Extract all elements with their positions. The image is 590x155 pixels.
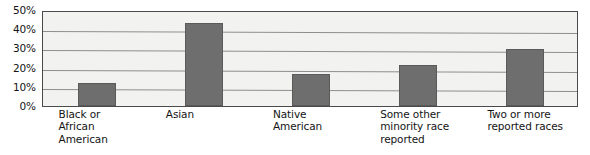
x-axis: Black or African AmericanAsianNative Ame…	[42, 108, 578, 155]
bar	[292, 74, 330, 106]
bar	[399, 65, 437, 106]
x-axis-category-label: Black or African American	[59, 108, 108, 145]
y-axis-tick-label: 10%	[13, 82, 36, 93]
y-axis-tick-label: 20%	[13, 63, 36, 74]
y-axis-tick-label: 30%	[13, 43, 36, 54]
plot-area	[42, 11, 578, 107]
y-axis-tick-label: 40%	[13, 24, 36, 35]
x-axis-category-label: Some other minority race reported	[380, 108, 449, 145]
y-axis: 50%40%30%20%10%0%	[0, 0, 40, 155]
x-axis-category-label: Native American	[273, 108, 322, 133]
gridline	[42, 31, 578, 34]
x-axis-category-label: Two or more reported races	[487, 108, 563, 133]
bar	[185, 23, 223, 106]
bar-chart: 50%40%30%20%10%0% Black or African Ameri…	[0, 0, 590, 155]
y-axis-tick-label: 50%	[13, 5, 36, 16]
gridline	[42, 70, 578, 73]
bar	[506, 49, 544, 106]
x-axis-category-label: Asian	[166, 108, 194, 120]
bar	[78, 83, 116, 106]
y-axis-tick-label: 0%	[20, 101, 36, 112]
gridline	[42, 50, 578, 53]
